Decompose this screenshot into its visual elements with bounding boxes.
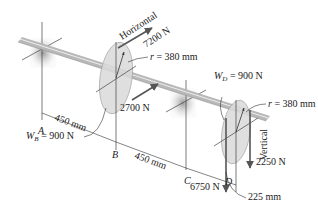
point-label-d: D [224,176,233,187]
force-2700-arrow [132,84,158,100]
pulley-b [95,40,137,150]
point-label-c: C [184,175,191,186]
point-label-b: B [112,149,118,160]
point-label-a: A [37,125,45,136]
label-weight-b: WB = 900 N [26,130,74,143]
label-force-6750: 6750 N [190,181,220,192]
label-weight-d: WD = 900 N [214,70,263,83]
label-force-2250: 2250 N [256,156,286,167]
shaft-pulley-diagram: Horizontal 7200 N r = 380 mm 2700 N WD =… [0,0,318,214]
label-force-2700: 2700 N [120,102,150,113]
bearing-a [22,22,62,120]
label-radius-d: r = 380 mm [268,98,316,109]
label-radius-b: r = 380 mm [150,51,198,62]
label-force-7200: 7200 N [141,24,172,49]
label-dim-cd: 225 mm [248,191,281,202]
leader-wd [220,97,224,120]
label-dim-bc: 450 mm [133,150,168,172]
